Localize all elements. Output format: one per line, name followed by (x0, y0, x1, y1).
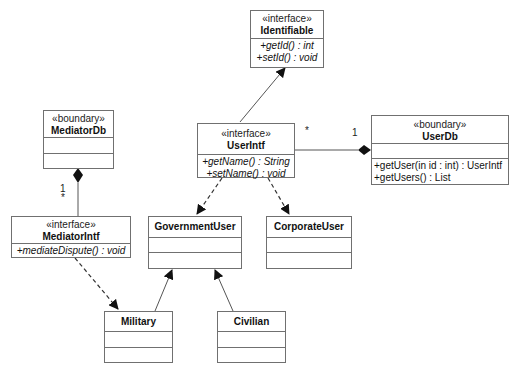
class-governmentuser[interactable]: GovernmentUser (148, 216, 242, 269)
stereotype-label: «interface» (198, 128, 294, 140)
operation: +setName() : void (200, 168, 292, 180)
stereotype-label: «interface» (12, 219, 130, 231)
class-military[interactable]: Military (104, 311, 173, 363)
operations-compartment: +mediateDispute() : void (12, 244, 130, 258)
operation: +setId() : void (253, 52, 321, 64)
stereotype-label: «boundary» (44, 113, 113, 125)
class-userdb[interactable]: «boundary» UserDb +getUser(in id : int) … (371, 115, 509, 185)
multiplicity-userintf: * (305, 125, 309, 136)
class-name: Civilian (218, 316, 285, 328)
class-name: Identifiable (251, 25, 323, 37)
class-header: Civilian (218, 312, 285, 332)
class-name: MediatorDb (44, 125, 113, 137)
operation: +getId() : int (253, 40, 321, 52)
class-header: «boundary» UserDb (372, 116, 508, 144)
operation: +getName() : String (200, 156, 292, 168)
stereotype-label: «interface» (251, 13, 323, 25)
class-mediatorintf[interactable]: «interface» MediatorIntf +mediateDispute… (11, 216, 131, 258)
class-name: Military (105, 316, 172, 328)
class-identifiable[interactable]: «interface» Identifiable +getId() : int … (250, 10, 324, 68)
class-header: «interface» UserIntf (198, 124, 294, 155)
class-civilian[interactable]: Civilian (217, 311, 286, 363)
class-header: «interface» Identifiable (251, 11, 323, 39)
class-userintf[interactable]: «interface» UserIntf +getName() : String… (197, 123, 295, 178)
operations-compartment (105, 348, 172, 362)
class-header: Military (105, 312, 172, 332)
multiplicity-userdb: 1 (352, 127, 358, 138)
attributes-compartment (267, 238, 351, 253)
operations-compartment: +getId() : int +setId() : void (251, 39, 323, 64)
class-name: CorporateUser (267, 221, 351, 233)
stereotype-label: «boundary» (372, 119, 508, 131)
attributes-compartment (218, 332, 285, 348)
operations-compartment: +getUser(in id : int) : UserIntf +getUse… (372, 159, 508, 184)
operations-compartment (149, 253, 241, 268)
operation: +getUser(in id : int) : UserIntf (374, 160, 506, 172)
operations-compartment: +getName() : String +setName() : void (198, 155, 294, 180)
class-header: «boundary» MediatorDb (44, 111, 113, 138)
class-header: CorporateUser (267, 217, 351, 238)
multiplicity-mediatorintf: * (61, 192, 65, 203)
operations-compartment (44, 154, 113, 168)
attributes-compartment (149, 238, 241, 253)
operation: +mediateDispute() : void (14, 245, 128, 257)
class-header: «interface» MediatorIntf (12, 217, 130, 244)
class-name: UserDb (372, 131, 508, 143)
operation: +getUsers() : List (374, 172, 506, 184)
class-name: GovernmentUser (149, 221, 241, 233)
class-mediatordb[interactable]: «boundary» MediatorDb (43, 110, 114, 169)
attributes-compartment (372, 144, 508, 159)
operations-compartment (218, 348, 285, 362)
attributes-compartment (105, 332, 172, 348)
class-name: UserIntf (198, 140, 294, 152)
class-header: GovernmentUser (149, 217, 241, 238)
attributes-compartment (44, 138, 113, 154)
class-name: MediatorIntf (12, 231, 130, 243)
operations-compartment (267, 253, 351, 268)
class-corporateuser[interactable]: CorporateUser (266, 216, 352, 269)
